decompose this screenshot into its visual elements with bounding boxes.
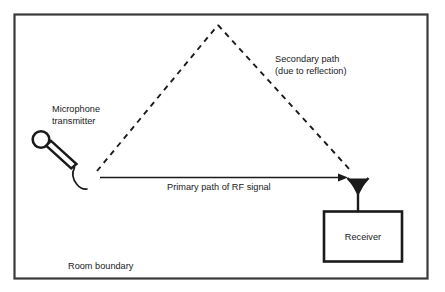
secondary-path-label-line2: (due to reflection): [275, 66, 347, 76]
microphone-body-icon: [46, 141, 76, 169]
receiver-label: Receiver: [345, 232, 381, 242]
secondary-path-left-leg: [97, 25, 218, 171]
room-boundary-label: Room boundary: [68, 261, 134, 271]
secondary-path-right-leg: [218, 25, 351, 171]
primary-path-label: Primary path of RF signal: [167, 182, 271, 192]
transmitter-label-line2: transmitter: [52, 116, 95, 126]
transmitter-label-line1: Microphone: [52, 104, 100, 114]
primary-path-arrowhead: [338, 173, 348, 181]
diagram-canvas: Secondary path (due to reflection) Prima…: [0, 0, 445, 292]
secondary-path-label-line1: Secondary path: [275, 54, 339, 64]
microphone-cable-icon: [73, 168, 87, 190]
